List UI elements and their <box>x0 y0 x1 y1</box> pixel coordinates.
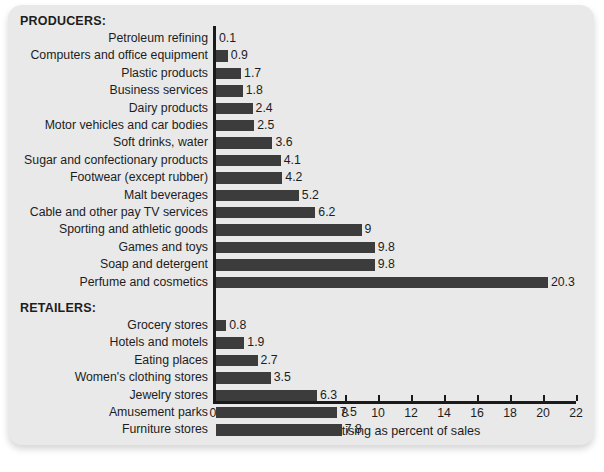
bar-category-label: Plastic products <box>121 65 213 82</box>
bar-row: Dairy products2.4 <box>8 100 594 117</box>
bar <box>216 390 317 401</box>
bar <box>216 320 226 331</box>
bar <box>216 155 281 166</box>
bar-row: Amusement parks7.5 <box>8 404 594 421</box>
bar-value-label: 2.7 <box>258 352 278 369</box>
bar-value-label: 6.3 <box>317 387 337 404</box>
bar-category-label: Women's clothing stores <box>75 369 213 386</box>
bar-row: Soap and detergent9.8 <box>8 256 594 273</box>
bar <box>216 424 342 435</box>
bar <box>216 85 243 96</box>
bar <box>216 172 282 183</box>
bar-category-label: Perfume and cosmetics <box>80 274 214 291</box>
bar-value-label: 5.2 <box>299 187 319 204</box>
bar-category-label: Malt beverages <box>124 187 213 204</box>
bar-category-label: Amusement parks <box>109 404 213 421</box>
bar-category-label: Business services <box>110 82 213 99</box>
bar-value-label: 2.5 <box>254 117 274 134</box>
bar-value-label: 4.1 <box>281 152 301 169</box>
bar <box>216 259 375 270</box>
bar-category-label: Motor vehicles and car bodies <box>45 117 213 134</box>
bar <box>216 224 362 235</box>
bar-category-label: Cable and other pay TV services <box>30 204 213 221</box>
bar-row: Plastic products1.7 <box>8 65 594 82</box>
bar-row: Hotels and motels1.9 <box>8 334 594 351</box>
bar-category-label: Jewelry stores <box>129 387 213 404</box>
bar-category-label: Hotels and motels <box>110 334 213 351</box>
bar-row: Footwear (except rubber)4.2 <box>8 169 594 186</box>
bar-category-label: Games and toys <box>118 239 213 256</box>
bar-category-label: Soap and detergent <box>100 256 213 273</box>
section-header-retailers: RETAILERS: <box>20 301 96 315</box>
bar-value-label: 0.8 <box>226 317 246 334</box>
bar-row: Computers and office equipment0.9 <box>8 47 594 64</box>
bar <box>216 50 228 61</box>
bar-category-label: Computers and office equipment <box>30 47 213 64</box>
bar-row: Soft drinks, water3.6 <box>8 134 594 151</box>
bar-value-label: 6.2 <box>315 204 335 221</box>
bar-value-label: 1.8 <box>243 82 263 99</box>
bar-value-label: 20.3 <box>548 274 575 291</box>
bar-category-label: Sugar and confectionary products <box>24 152 213 169</box>
bar-value-label: 3.6 <box>272 134 292 151</box>
bar-row: Motor vehicles and car bodies2.5 <box>8 117 594 134</box>
bar-value-label: 7.8 <box>342 421 362 438</box>
bar <box>216 68 241 79</box>
section-header-producers: PRODUCERS: <box>20 14 106 28</box>
bar-category-label: Grocery stores <box>127 317 213 334</box>
bar-category-label: Dairy products <box>129 100 213 117</box>
figure-root: 0246810121416182022 Advertising as perce… <box>0 0 604 472</box>
bar-row: Eating places2.7 <box>8 352 594 369</box>
bar-row: Business services1.8 <box>8 82 594 99</box>
bar-category-label: Footwear (except rubber) <box>70 169 213 186</box>
bar-row: Women's clothing stores3.5 <box>8 369 594 386</box>
bar-value-label: 9 <box>362 221 372 238</box>
bar-category-label: Soft drinks, water <box>113 134 213 151</box>
bar-category-label: Petroleum refining <box>108 30 213 47</box>
bar <box>216 120 254 131</box>
bar <box>216 103 253 114</box>
bar-row: Perfume and cosmetics20.3 <box>8 274 594 291</box>
bar <box>216 190 299 201</box>
bar-row: Sugar and confectionary products4.1 <box>8 152 594 169</box>
bar-chart-plot: 0246810121416182022 Advertising as perce… <box>8 5 594 445</box>
bar-row: Furniture stores7.8 <box>8 421 594 438</box>
bar-row: Jewelry stores6.3 <box>8 387 594 404</box>
bar-value-label: 3.5 <box>271 369 291 386</box>
bar-row: Petroleum refining0.1 <box>8 30 594 47</box>
bar-value-label: 1.7 <box>241 65 261 82</box>
bar-category-label: Eating places <box>134 352 213 369</box>
bar-row: Games and toys9.8 <box>8 239 594 256</box>
bar-value-label: 1.9 <box>244 334 264 351</box>
bar <box>216 277 548 288</box>
bar-value-label: 9.8 <box>375 256 395 273</box>
bar-value-label: 4.2 <box>282 169 302 186</box>
bar-value-label: 2.4 <box>253 100 273 117</box>
bar-value-label: 7.5 <box>337 404 357 421</box>
bar-value-label: 0.1 <box>216 30 236 47</box>
bar <box>216 242 375 253</box>
bar <box>216 207 315 218</box>
bar <box>216 355 258 366</box>
bar <box>216 337 244 348</box>
bar-row: Grocery stores0.8 <box>8 317 594 334</box>
bar <box>216 407 337 418</box>
bar <box>216 137 272 148</box>
bar-row: Sporting and athletic goods9 <box>8 221 594 238</box>
bar-category-label: Furniture stores <box>122 421 213 438</box>
bar <box>216 372 271 383</box>
bar-row: Cable and other pay TV services6.2 <box>8 204 594 221</box>
bar-value-label: 9.8 <box>375 239 395 256</box>
bar-row: Malt beverages5.2 <box>8 187 594 204</box>
bar-value-label: 0.9 <box>228 47 248 64</box>
bar-category-label: Sporting and athletic goods <box>59 221 213 238</box>
chart-card: 0246810121416182022 Advertising as perce… <box>8 5 594 445</box>
